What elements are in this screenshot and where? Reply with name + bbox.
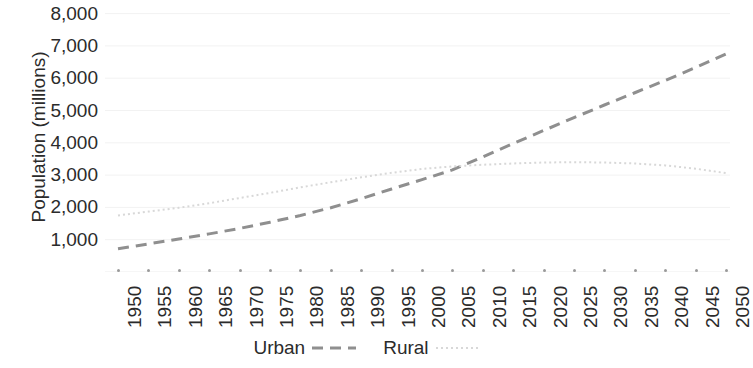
x-axis-tick-label: 2045 [703, 286, 722, 328]
x-axis-tick-label: 1985 [338, 286, 357, 328]
y-axis-tick-label: 1,000 [32, 230, 98, 249]
x-axis-tick-label: 2035 [642, 286, 661, 328]
x-axis-tick-mark [239, 269, 242, 272]
plot-svg [105, 4, 730, 272]
x-axis-tick-mark [421, 269, 424, 272]
x-axis-tick-label: 1970 [247, 286, 266, 328]
x-axis-tick-label: 1990 [368, 286, 387, 328]
x-axis-tick-label: 2005 [459, 286, 478, 328]
x-axis-tick-label: 2040 [672, 286, 691, 328]
x-axis-tick-label: 2050 [733, 286, 752, 328]
x-axis-tick-label: 2010 [490, 286, 509, 328]
legend-label: Rural [383, 338, 428, 357]
x-axis-tick-label: 1950 [125, 286, 144, 328]
x-axis-tick-mark [573, 269, 576, 272]
x-axis-tick-mark [330, 269, 333, 272]
x-axis-tick-label: 1955 [155, 286, 174, 328]
y-axis-tick-labels: 1,0002,0003,0004,0005,0006,0007,0008,000 [32, 0, 98, 272]
x-axis-tick-mark [725, 269, 728, 272]
x-axis-tick-mark [482, 269, 485, 272]
legend-swatch-dotted-line-icon [435, 342, 481, 354]
x-axis-tick-mark [634, 269, 637, 272]
x-axis-tick-mark [117, 269, 120, 272]
y-axis-tick-label: 2,000 [32, 197, 98, 216]
legend-item-urban[interactable]: Urban [253, 338, 357, 357]
x-axis-tick-label: 1995 [399, 286, 418, 328]
y-axis-tick-label: 5,000 [32, 101, 98, 120]
y-axis-tick-label: 7,000 [32, 36, 98, 55]
y-axis-tick-label: 8,000 [32, 4, 98, 23]
y-axis-tick-label: 4,000 [32, 133, 98, 152]
x-axis-tick-label: 2000 [429, 286, 448, 328]
x-axis-tick-label: 1965 [216, 286, 235, 328]
legend-swatch-dashed-line-icon [311, 342, 357, 354]
plot-area [105, 4, 730, 272]
x-axis-tick-label: 2020 [551, 286, 570, 328]
x-axis-tick-label: 1975 [277, 286, 296, 328]
legend-label: Urban [253, 338, 305, 357]
x-axis-tick-label: 2025 [581, 286, 600, 328]
legend-item-rural[interactable]: Rural [383, 338, 480, 357]
x-axis-tick-mark [543, 269, 546, 272]
y-axis-tick-label: 6,000 [32, 68, 98, 87]
x-axis-tick-mark [178, 269, 181, 272]
x-axis-tick-mark [391, 269, 394, 272]
x-axis-tick-label: 1960 [186, 286, 205, 328]
x-axis-tick-label: 2015 [520, 286, 539, 328]
chart-legend: UrbanRural [0, 338, 734, 357]
x-axis-tick-label: 1980 [307, 286, 326, 328]
x-axis-tick-mark [695, 269, 698, 272]
x-axis-tick-mark [269, 269, 272, 272]
series-line-urban [118, 54, 726, 249]
y-axis-tick-label: 3,000 [32, 165, 98, 184]
x-axis-tick-label: 2030 [611, 286, 630, 328]
